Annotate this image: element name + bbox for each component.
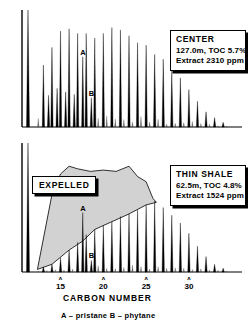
axis-tick-label-15: 15 [56, 282, 65, 291]
callout-thin-shale: THIN SHALE 62.5m, TOC 4.8% Extract 1524 … [170, 165, 246, 206]
callout-expelled-label: EXPELLED [39, 180, 89, 190]
callout-expelled: EXPELLED [32, 176, 96, 194]
callout-thin-shale-extract: Extract 1524 ppm [176, 191, 240, 200]
axis-tick-label-25: 25 [142, 282, 151, 291]
axis-tick-caret-25: ʌ [144, 275, 147, 281]
callout-thin-shale-depth-toc: 62.5m, TOC 4.8% [176, 181, 240, 190]
callout-center-title: CENTER [176, 34, 240, 44]
axis-tick-label-20: 20 [99, 282, 108, 291]
callout-thin-shale-title: THIN SHALE [176, 169, 240, 179]
peak-marker-b-bottom: B [89, 251, 95, 260]
bottom-panel-thin-shale [22, 143, 242, 272]
axis-tick-label-30: 30 [184, 282, 193, 291]
axis-tick-caret-20: ʌ [102, 275, 105, 281]
callout-center: CENTER 127.0m, TOC 5.7% Extract 2310 ppm [170, 30, 246, 71]
peak-marker-b-top: B [89, 89, 95, 98]
chromatogram-figure: CENTER 127.0m, TOC 5.7% Extract 2310 ppm… [0, 0, 248, 326]
callout-center-extract: Extract 2310 ppm [176, 56, 240, 65]
axis-tick-caret-30: ʌ [187, 275, 190, 281]
peak-marker-a-top: A [80, 48, 86, 57]
callout-center-depth-toc: 127.0m, TOC 5.7% [176, 46, 240, 55]
axis-title: CARBON NUMBER [63, 293, 152, 303]
figure-footnote: A – pristane B – phytane [61, 311, 155, 320]
axis-tick-caret-15: ʌ [59, 275, 62, 281]
peak-marker-a-bottom: A [80, 204, 86, 213]
